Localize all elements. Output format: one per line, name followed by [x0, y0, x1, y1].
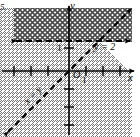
graph-canvas — [0, 0, 140, 137]
origin-label: O — [73, 70, 80, 80]
line-label-y-equals-2: y = 2 — [94, 42, 115, 52]
x-axis-label: x — [128, 72, 133, 83]
x-unit-tick-label: 1 — [82, 76, 87, 85]
item-number: 5. — [0, 2, 6, 12]
y-unit-tick-label: 1 — [57, 44, 62, 53]
inequality-graph-figure: 5. — [0, 0, 140, 137]
y-axis-label: y — [70, 0, 75, 11]
